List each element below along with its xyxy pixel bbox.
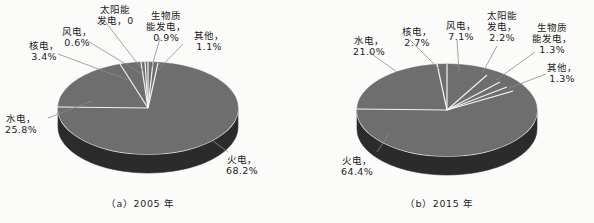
- label-hydro-2015-line1: 水电，: [353, 35, 385, 46]
- label-biomass-2015-line2: 能发电，: [532, 33, 572, 44]
- label-nuclear-2015: 核电， 2.7%: [402, 26, 432, 48]
- label-nuclear-2015-value: 2.7%: [402, 37, 432, 48]
- label-hydro-2005-line1: 水电，: [5, 113, 37, 124]
- label-thermal-2005: 火电， 68.2%: [226, 154, 258, 176]
- label-thermal-2005-value: 68.2%: [226, 165, 258, 176]
- label-biomass-2005-line2: 能发电，: [146, 21, 186, 32]
- label-solar-2005-line2: 发电，0: [97, 15, 133, 26]
- label-hydro-2015-value: 21.0%: [353, 46, 385, 57]
- label-solar-2005: 太阳能 发电，0: [97, 4, 133, 26]
- caption-2005: （a）2005 年: [106, 196, 174, 210]
- label-hydro-2015: 水电， 21.0%: [353, 35, 385, 57]
- label-nuclear-2005-value: 3.4%: [29, 51, 59, 62]
- label-thermal-2005-line1: 火电，: [226, 154, 258, 165]
- label-other-2005-line1: 其他，: [194, 30, 224, 41]
- panel-2015: 水电， 21.0% 核电， 2.7% 风电， 7.1% 太阳能 发电， 2.2%…: [297, 0, 594, 223]
- label-thermal-2015: 火电， 64.4%: [341, 155, 373, 177]
- label-solar-2015-line2: 发电，: [487, 21, 517, 32]
- label-biomass-2015-value: 1.3%: [532, 44, 572, 55]
- caption-2015: （b）2015 年: [405, 196, 474, 210]
- label-wind-2015: 风电， 7.1%: [446, 20, 476, 42]
- label-nuclear-2015-line1: 核电，: [402, 26, 432, 37]
- label-nuclear-2005-line1: 核电，: [29, 40, 59, 51]
- label-biomass-2015-line1: 生物质: [532, 22, 572, 33]
- label-solar-2015: 太阳能 发电， 2.2%: [487, 10, 517, 43]
- label-wind-2015-line1: 风电，: [446, 20, 476, 31]
- label-wind-2005-value: 0.6%: [62, 37, 92, 48]
- label-other-2015-value: 1.3%: [547, 73, 577, 84]
- label-other-2005-value: 1.1%: [194, 41, 224, 52]
- pie-chart-figure: 太阳能 发电，0 生物质 能发电， 0.9% 风电， 0.6% 其他， 1.1%…: [0, 0, 594, 223]
- label-wind-2015-value: 7.1%: [446, 31, 476, 42]
- label-biomass-2005-line1: 生物质: [146, 10, 186, 21]
- label-solar-2015-line1: 太阳能: [487, 10, 517, 21]
- label-hydro-2005: 水电， 25.8%: [5, 113, 37, 135]
- label-solar-2015-value: 2.2%: [487, 32, 517, 43]
- label-wind-2005: 风电， 0.6%: [62, 26, 92, 48]
- label-biomass-2005-value: 0.9%: [146, 32, 186, 43]
- label-thermal-2015-value: 64.4%: [341, 166, 373, 177]
- label-biomass-2005: 生物质 能发电， 0.9%: [146, 10, 186, 43]
- label-solar-2005-line1: 太阳能: [97, 4, 133, 15]
- label-other-2005: 其他， 1.1%: [194, 30, 224, 52]
- label-nuclear-2005: 核电， 3.4%: [29, 40, 59, 62]
- panel-2005: 太阳能 发电，0 生物质 能发电， 0.9% 风电， 0.6% 其他， 1.1%…: [0, 0, 297, 223]
- label-other-2015-line1: 其他，: [547, 62, 577, 73]
- label-thermal-2015-line1: 火电，: [341, 155, 373, 166]
- label-wind-2005-line1: 风电，: [62, 26, 92, 37]
- label-other-2015: 其他， 1.3%: [547, 62, 577, 84]
- label-hydro-2005-value: 25.8%: [5, 124, 37, 135]
- label-biomass-2015: 生物质 能发电， 1.3%: [532, 22, 572, 55]
